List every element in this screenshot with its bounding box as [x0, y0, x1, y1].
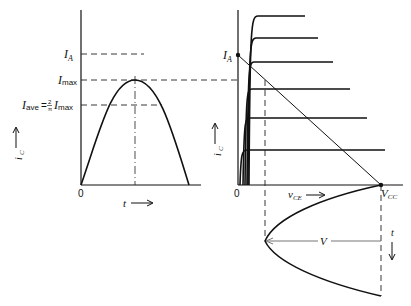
right-ic-axis-label: i C	[212, 123, 225, 156]
svg-text:=: =	[41, 100, 47, 111]
right-plot: V t IA 0 VCC vCE i C	[212, 10, 403, 296]
right-ia-label: IA	[222, 48, 232, 64]
vcc-label: VCC	[381, 187, 397, 201]
left-ic-axis-label: i C	[13, 127, 26, 160]
right-t-label: t	[391, 227, 394, 238]
svg-text:π: π	[48, 106, 52, 112]
left-t-label: t	[123, 197, 127, 209]
iave-label: Iave = 2 π Imax	[21, 98, 73, 112]
down-arrow-icon	[389, 242, 395, 260]
svg-text:C: C	[217, 146, 225, 151]
v-label: V	[320, 235, 328, 247]
svg-text:Imax: Imax	[53, 98, 73, 112]
svg-text:vCE: vCE	[288, 188, 303, 202]
output-characteristics	[238, 16, 385, 185]
right-origin-label: 0	[234, 188, 240, 199]
diagram-canvas: IA Imax Iave = 2 π Imax i C 0 t	[0, 0, 411, 306]
v-amplitude-arrow: V	[266, 235, 381, 247]
right-arrow-icon	[131, 200, 153, 206]
characteristic-curve	[249, 16, 305, 185]
characteristic-curve	[247, 62, 333, 185]
characteristic-curve	[245, 89, 350, 185]
left-origin-label: 0	[78, 188, 84, 199]
characteristic-curve	[248, 38, 318, 185]
ia-point	[236, 53, 240, 57]
load-line	[238, 55, 381, 185]
characteristic-curve	[240, 150, 385, 185]
vce-axis-label: vCE	[288, 188, 325, 202]
svg-text:C: C	[18, 150, 26, 155]
svg-text:Iave: Iave	[21, 98, 39, 112]
svg-text:2: 2	[48, 99, 52, 105]
svg-text:i: i	[13, 157, 24, 160]
imax-label: Imax	[57, 73, 77, 87]
ia-label: IA	[63, 47, 73, 63]
characteristic-curve	[243, 118, 367, 185]
svg-text:i: i	[212, 153, 223, 156]
left-plot: IA Imax Iave = 2 π Imax i C 0 t	[13, 10, 238, 209]
